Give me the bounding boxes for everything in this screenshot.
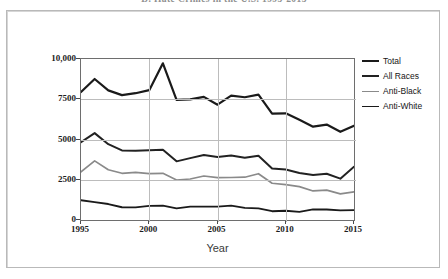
x-tick-mark [217, 221, 218, 224]
y-tick-label: 7500 [28, 94, 76, 103]
y-tick-label: 2500 [28, 175, 76, 184]
gridline-horizontal [81, 99, 356, 100]
legend-item-label: Anti-Black [383, 87, 421, 96]
x-tick-mark [148, 221, 149, 224]
y-tick-mark [76, 58, 80, 59]
gridline-vertical [149, 59, 150, 222]
gridline-horizontal [81, 140, 356, 141]
x-tick-label: 2010 [262, 224, 308, 234]
x-tick-label: 2015 [330, 224, 376, 234]
legend-item-anti-white: Anti-White [362, 99, 442, 113]
legend-item-label: Anti-White [383, 102, 422, 111]
x-tick-mark [353, 221, 354, 224]
x-axis: 19952000200520102015 [80, 224, 355, 238]
y-tick-label: 10,000 [28, 54, 76, 63]
y-tick-mark [76, 179, 80, 180]
gridline-vertical [218, 59, 219, 222]
x-tick-label: 1995 [57, 224, 103, 234]
legend-item-label: All Races [383, 72, 419, 81]
y-tick-mark [76, 98, 80, 99]
legend-item-label: Total [383, 57, 401, 66]
legend-line-swatch [362, 60, 379, 62]
y-tick-mark [76, 139, 80, 140]
hate-crimes-line-chart: 025005000750010,000 19952000200520102015… [0, 0, 448, 279]
gridline-horizontal [81, 180, 356, 181]
x-tick-label: 2000 [125, 224, 171, 234]
legend-line-swatch [362, 106, 379, 107]
x-tick-label: 2005 [194, 224, 240, 234]
x-tick-mark [80, 221, 81, 224]
legend-line-swatch [362, 91, 379, 92]
x-axis-title: Year [80, 242, 355, 254]
legend-item-total: Total [362, 54, 442, 68]
gridline-vertical [286, 59, 287, 222]
y-tick-label: 5000 [28, 135, 76, 144]
plot-area [80, 58, 355, 221]
y-axis: 025005000750010,000 [26, 58, 76, 221]
legend: TotalAll RacesAnti-BlackAnti-White [362, 54, 442, 114]
legend-line-swatch [362, 75, 379, 77]
y-tick-label: 0 [28, 215, 76, 224]
legend-item-all-races: All Races [362, 69, 442, 83]
y-tick-mark [76, 219, 80, 220]
legend-item-anti-black: Anti-Black [362, 84, 442, 98]
x-tick-mark [285, 221, 286, 224]
